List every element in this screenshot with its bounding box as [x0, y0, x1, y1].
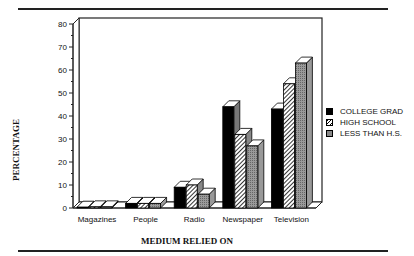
- legend-label: LESS THAN H.S.: [340, 129, 402, 138]
- legend-item-high-school: HIGH SCHOOL: [326, 117, 403, 127]
- solid-swatch-icon: [326, 108, 333, 115]
- legend-item-college-grad: COLLEGE GRAD: [326, 106, 403, 116]
- svg-text:80: 80: [58, 20, 67, 29]
- svg-text:30: 30: [58, 135, 67, 144]
- svg-text:Magazines: Magazines: [78, 215, 117, 224]
- svg-text:Radio: Radio: [184, 215, 205, 224]
- legend-item-less-than-hs: LESS THAN H.S.: [326, 128, 403, 138]
- gray-swatch-icon: [326, 130, 333, 137]
- svg-text:Television: Television: [274, 215, 309, 224]
- svg-text:70: 70: [58, 43, 67, 52]
- x-axis-label: MEDIUM RELIED ON: [0, 236, 414, 246]
- hatched-swatch-icon: [326, 119, 333, 126]
- svg-text:People: People: [133, 215, 158, 224]
- legend: COLLEGE GRAD HIGH SCHOOL LESS THAN H.S.: [326, 106, 403, 139]
- y-axis-label: PERCENTAGE: [6, 95, 26, 205]
- svg-text:Newspaper: Newspaper: [223, 215, 264, 224]
- svg-text:10: 10: [58, 181, 67, 190]
- legend-label: COLLEGE GRAD: [340, 107, 403, 116]
- svg-text:0: 0: [63, 204, 68, 213]
- svg-text:60: 60: [58, 66, 67, 75]
- svg-text:50: 50: [58, 89, 67, 98]
- svg-text:20: 20: [58, 158, 67, 167]
- legend-label: HIGH SCHOOL: [340, 118, 396, 127]
- svg-text:40: 40: [58, 112, 67, 121]
- y-axis-label-text: PERCENTAGE: [11, 119, 21, 181]
